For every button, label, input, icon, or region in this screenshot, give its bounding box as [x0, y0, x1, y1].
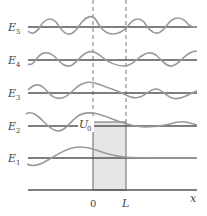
wavefunction-e5 [28, 17, 197, 34]
label-e2: E2 [7, 120, 20, 135]
label-e4: E4 [7, 54, 21, 69]
svg-text:2: 2 [16, 127, 20, 135]
label-x-axis: x [190, 192, 197, 205]
label-e1: E1 [7, 152, 20, 167]
wavefunction-e3 [28, 82, 197, 98]
svg-text:3: 3 [16, 94, 20, 102]
svg-text:5: 5 [16, 28, 20, 36]
svg-text:1: 1 [16, 159, 20, 167]
label-L: L [121, 197, 129, 210]
svg-text:0: 0 [87, 125, 91, 133]
label-e3: E3 [7, 87, 20, 102]
label-origin: 0 [90, 198, 96, 209]
svg-text:E: E [7, 152, 16, 165]
svg-text:E: E [7, 54, 16, 67]
svg-text:E: E [7, 87, 16, 100]
svg-text:E: E [7, 21, 16, 34]
svg-text:E: E [7, 120, 16, 133]
wavefunction-e4 [28, 51, 197, 66]
svg-text:4: 4 [16, 61, 21, 69]
label-e5: E5 [7, 21, 20, 36]
tunneling-diagram: E5 E4 E3 E2 E1 U0 0 L x [0, 0, 207, 216]
